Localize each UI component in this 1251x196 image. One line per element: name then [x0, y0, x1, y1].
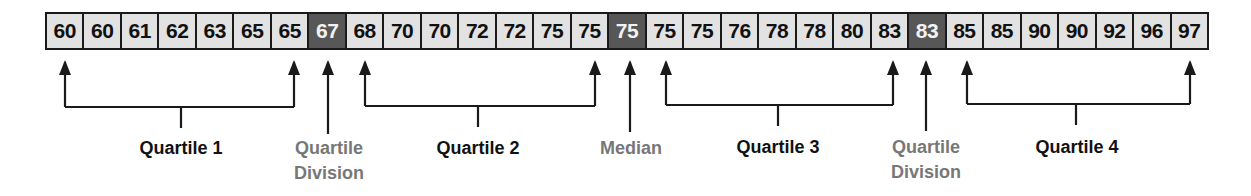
label-line: Division	[891, 160, 961, 185]
median-arrow	[624, 60, 636, 132]
quartile-division-2-arrow	[920, 60, 932, 131]
label-line: Division	[294, 161, 364, 186]
quartile-division-2-label: Quartile Division	[891, 135, 961, 185]
median-label: Median	[600, 136, 662, 161]
quartile-4-bracket	[961, 60, 1196, 125]
quartile-division-1-label: Quartile Division	[294, 136, 364, 186]
quartile-2-label: Quartile 2	[436, 136, 519, 161]
quartile-division-1-arrow	[322, 60, 334, 134]
label-line: Quartile	[294, 136, 364, 161]
quartile-3-label: Quartile 3	[736, 135, 819, 160]
bracket-arrows	[0, 0, 1251, 196]
quartile-4-label: Quartile 4	[1035, 135, 1118, 160]
label-line: Quartile	[891, 135, 961, 160]
quartile-1-label: Quartile 1	[139, 136, 222, 161]
quartile-3-bracket	[660, 60, 899, 126]
quartile-1-bracket	[59, 60, 300, 128]
quartile-2-bracket	[359, 60, 601, 127]
